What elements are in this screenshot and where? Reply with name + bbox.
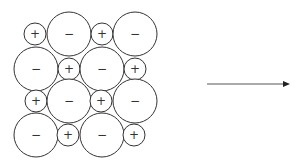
anion: − (14, 47, 58, 91)
charge-label: + (31, 94, 41, 108)
ion-lattice: +−+−−+−++−+−−+−+ (14, 12, 157, 157)
charge-label: + (130, 62, 140, 76)
arrow-head-icon (283, 81, 290, 87)
anion: − (14, 113, 58, 157)
anion: − (47, 12, 91, 56)
charge-label: + (129, 128, 139, 142)
ionic-lattice-diagram: +−+−−+−++−+−−+−+ (0, 0, 299, 164)
cation: + (57, 124, 79, 146)
cation: + (25, 90, 47, 112)
anion: − (113, 12, 157, 56)
charge-label: − (97, 128, 107, 142)
cation: + (58, 58, 80, 80)
anion: − (80, 113, 124, 157)
charge-label: − (64, 94, 74, 108)
charge-label: − (31, 128, 41, 142)
cation: + (91, 23, 113, 45)
cation: + (90, 90, 112, 112)
charge-label: − (31, 62, 41, 76)
charge-label: − (130, 27, 140, 41)
charge-label: + (64, 62, 74, 76)
charge-label: − (97, 62, 107, 76)
charge-label: − (130, 94, 140, 108)
charge-label: + (97, 27, 107, 41)
charge-label: + (96, 94, 106, 108)
anion: − (113, 79, 157, 123)
cation: + (124, 58, 146, 80)
charge-label: + (30, 27, 40, 41)
cation: + (123, 124, 145, 146)
direction-arrow (207, 81, 290, 87)
anion: − (80, 47, 124, 91)
anion: − (47, 79, 91, 123)
charge-label: + (63, 128, 73, 142)
charge-label: − (64, 27, 74, 41)
cation: + (24, 23, 46, 45)
